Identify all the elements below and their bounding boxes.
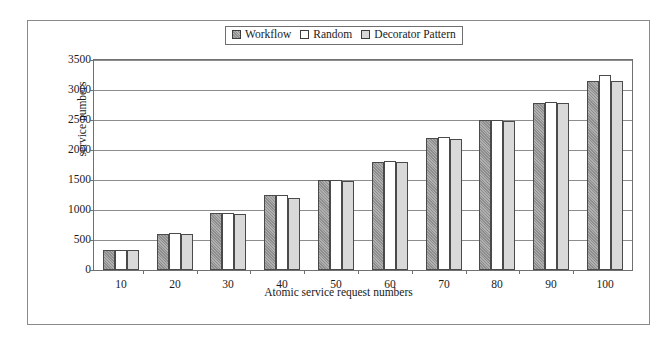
y-axis-tick-label: 1500 bbox=[68, 174, 91, 186]
bar-random-20 bbox=[169, 233, 181, 270]
bar-workflow-100 bbox=[587, 81, 599, 270]
bar-decorator-100 bbox=[611, 81, 623, 270]
x-axis-tick-mark bbox=[250, 270, 251, 274]
bar-workflow-60 bbox=[372, 162, 384, 270]
y-axis-tick-mark bbox=[90, 270, 94, 271]
y-axis-tick-label: 500 bbox=[74, 234, 91, 246]
x-axis-tick-mark bbox=[143, 270, 144, 274]
bar-group bbox=[210, 60, 246, 270]
bar-group bbox=[426, 60, 462, 270]
legend-entry-decorator-pattern: Decorator Pattern bbox=[361, 29, 455, 41]
bar-decorator-80 bbox=[503, 121, 515, 270]
x-axis-tick-mark bbox=[519, 270, 520, 274]
legend-entry-workflow: Workflow bbox=[232, 29, 291, 41]
bar-decorator-60 bbox=[396, 162, 408, 270]
bar-random-60 bbox=[384, 161, 396, 270]
swatch-workflow-icon bbox=[232, 30, 241, 39]
bar-group bbox=[103, 60, 139, 270]
x-axis-tick-mark bbox=[304, 270, 305, 274]
x-axis-tick-mark bbox=[358, 270, 359, 274]
bar-decorator-50 bbox=[342, 181, 354, 270]
bar-decorator-90 bbox=[557, 103, 569, 270]
bar-group bbox=[157, 60, 193, 270]
bar-workflow-90 bbox=[533, 103, 545, 270]
legend-label-workflow: Workflow bbox=[245, 29, 291, 41]
bar-group bbox=[533, 60, 569, 270]
bar-random-80 bbox=[491, 120, 503, 270]
bar-random-90 bbox=[545, 102, 557, 270]
y-axis-tick-label: 1000 bbox=[68, 204, 91, 216]
bar-workflow-20 bbox=[157, 234, 169, 270]
bar-group bbox=[318, 60, 354, 270]
legend-entry-random: Random bbox=[300, 29, 352, 41]
bar-decorator-70 bbox=[450, 139, 462, 270]
y-axis-tick-label: 2000 bbox=[68, 144, 91, 156]
bar-decorator-40 bbox=[288, 198, 300, 270]
x-axis-tick-mark bbox=[197, 270, 198, 274]
legend-label-random: Random bbox=[313, 29, 352, 41]
bar-group bbox=[587, 60, 623, 270]
bar-random-50 bbox=[330, 180, 342, 270]
bar-workflow-80 bbox=[479, 120, 491, 270]
y-axis-tick-label: 2500 bbox=[68, 114, 91, 126]
chart-legend: Workflow Random Decorator Pattern bbox=[225, 26, 463, 45]
y-axis-tick-label: 3000 bbox=[68, 84, 91, 96]
bar-decorator-20 bbox=[181, 234, 193, 270]
chart-figure: Workflow Random Decorator Pattern servic… bbox=[27, 20, 650, 325]
bar-workflow-70 bbox=[426, 138, 438, 270]
bar-group bbox=[479, 60, 515, 270]
bar-decorator-10 bbox=[127, 250, 139, 270]
bar-random-10 bbox=[115, 250, 127, 270]
bar-group bbox=[372, 60, 408, 270]
legend-label-decorator-pattern: Decorator Pattern bbox=[374, 29, 455, 41]
bar-random-30 bbox=[222, 213, 234, 270]
bar-random-100 bbox=[599, 75, 611, 270]
swatch-decorator-icon bbox=[361, 30, 370, 39]
x-axis-tick-mark bbox=[466, 270, 467, 274]
bar-workflow-30 bbox=[210, 213, 222, 270]
x-axis-tick-mark bbox=[573, 270, 574, 274]
bar-groups bbox=[94, 60, 632, 270]
x-axis-tick-mark bbox=[412, 270, 413, 274]
bar-group bbox=[264, 60, 300, 270]
y-axis-tick-label: 3500 bbox=[68, 54, 91, 66]
x-axis-title: Atomic service request numbers bbox=[28, 286, 649, 298]
bar-workflow-50 bbox=[318, 180, 330, 270]
bar-random-70 bbox=[438, 137, 450, 270]
bar-workflow-10 bbox=[103, 250, 115, 270]
bar-random-40 bbox=[276, 195, 288, 270]
swatch-random-icon bbox=[300, 30, 309, 39]
bar-decorator-30 bbox=[234, 214, 246, 270]
plot-area: 0500100015002000250030003500 10203040506… bbox=[93, 59, 633, 271]
bar-workflow-40 bbox=[264, 195, 276, 270]
